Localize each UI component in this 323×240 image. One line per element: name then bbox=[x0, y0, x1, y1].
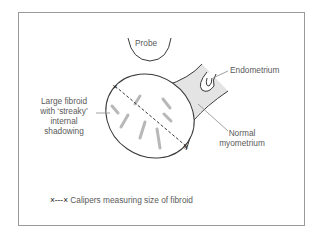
legend: ×---× Calipers measuring size of fibroid bbox=[50, 195, 193, 205]
caliper-start-icon: × bbox=[112, 83, 118, 91]
probe-label: Probe bbox=[135, 38, 157, 48]
myometrium-label: Normal myometrium bbox=[212, 128, 272, 148]
caliper-end-icon: × bbox=[183, 143, 189, 151]
fibroid-label: Large fibroid with ‘streaky’ internal sh… bbox=[34, 96, 94, 136]
leader-myometrium bbox=[198, 104, 228, 131]
endometrium-label: Endometrium bbox=[230, 65, 279, 75]
caliper-legend-icon: ×---× bbox=[50, 195, 68, 205]
legend-text: Calipers measuring size of fibroid bbox=[70, 195, 193, 205]
